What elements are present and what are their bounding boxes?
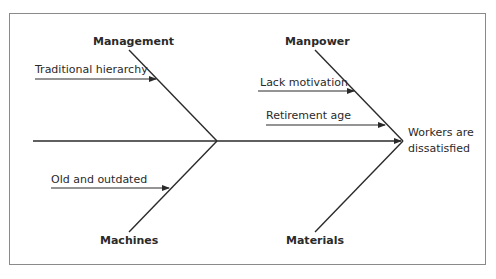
- machines-bone: [129, 141, 217, 232]
- cause-label-traditional-hierarchy: Traditional hierarchy: [35, 63, 148, 76]
- category-label-management: Management: [93, 35, 174, 48]
- effect-label-line2: dissatisfied: [408, 141, 474, 157]
- manpower-bone: [315, 50, 403, 141]
- category-label-machines: Machines: [100, 234, 158, 247]
- effect-label-line1: Workers are: [408, 125, 474, 141]
- cause-label-old-and-outdated: Old and outdated: [51, 173, 147, 186]
- cause-label-lack-motivation: Lack motivation: [260, 76, 348, 89]
- category-label-manpower: Manpower: [285, 35, 350, 48]
- effect-label: Workers are dissatisfied: [408, 125, 474, 157]
- materials-bone: [315, 141, 403, 232]
- category-label-materials: Materials: [286, 234, 344, 247]
- cause-label-retirement-age: Retirement age: [266, 109, 351, 122]
